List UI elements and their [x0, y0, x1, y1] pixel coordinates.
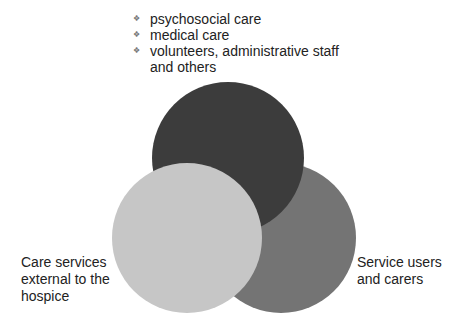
bullet-text: volunteers, administrative staff	[150, 43, 339, 59]
circle-external-services	[112, 163, 262, 313]
bullet-text: and others	[150, 59, 216, 75]
label-line: and carers	[357, 271, 442, 288]
bullet-item: ❖ volunteers, administrative staff	[130, 43, 339, 59]
bullet-text: psychosocial care	[150, 11, 261, 27]
label-line: hospice	[21, 288, 110, 305]
label-line: Service users	[357, 254, 442, 271]
label-line: Care services	[21, 254, 110, 271]
diamond-bullet-icon: ❖	[133, 27, 140, 43]
label-line: external to the	[21, 271, 110, 288]
bullet-item: ❖ psychosocial care	[130, 11, 339, 27]
label-service-users: Service users and carers	[357, 254, 442, 288]
staff-bullet-list: ❖ psychosocial care ❖ medical care ❖ vol…	[130, 11, 339, 75]
bullet-text: medical care	[150, 27, 229, 43]
bullet-item-continuation: and others	[130, 59, 339, 75]
bullet-item: ❖ medical care	[130, 27, 339, 43]
diamond-bullet-icon: ❖	[133, 43, 140, 59]
diamond-bullet-icon: ❖	[133, 11, 140, 27]
label-external-services: Care services external to the hospice	[21, 254, 110, 305]
